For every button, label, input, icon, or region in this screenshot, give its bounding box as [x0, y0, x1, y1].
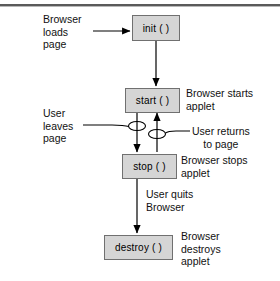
- label-user-returns-to-page: User returns to page: [192, 125, 250, 150]
- applet-lifecycle-diagram: init ( ) start ( ) stop ( ) destroy ( ) …: [0, 0, 280, 281]
- leader-user-leaves: [83, 125, 129, 127]
- label-browser-loads-page: Browser loads page: [43, 13, 82, 51]
- node-destroy-label: destroy ( ): [115, 242, 162, 253]
- node-start-label: start ( ): [136, 95, 169, 106]
- node-destroy[interactable]: destroy ( ): [104, 235, 173, 260]
- label-browser-destroys-applet: Browser destroys applet: [181, 230, 221, 268]
- node-start[interactable]: start ( ): [125, 88, 180, 113]
- node-stop-label: stop ( ): [133, 161, 166, 172]
- node-stop[interactable]: stop ( ): [122, 154, 177, 179]
- label-browser-starts-applet: Browser starts applet: [186, 87, 253, 112]
- label-user-leaves-page: User leaves page: [43, 107, 73, 145]
- label-browser-stops-applet: Browser stops applet: [181, 154, 248, 179]
- label-user-quits-browser: User quits Browser: [146, 188, 193, 213]
- top-divider-rule-shadow: [0, 6, 280, 7]
- transition-node-leaves: [129, 122, 146, 131]
- transition-node-returns: [149, 130, 166, 139]
- leader-user-returns: [165, 131, 190, 133]
- node-init[interactable]: init ( ): [132, 15, 180, 41]
- node-init-label: init ( ): [143, 23, 170, 34]
